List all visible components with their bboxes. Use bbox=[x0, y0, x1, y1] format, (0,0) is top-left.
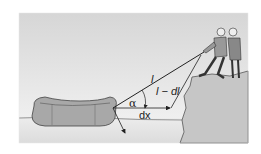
diagram: l l − dl α dx bbox=[0, 0, 261, 154]
label-rope-l: l bbox=[151, 74, 153, 85]
raft bbox=[32, 97, 116, 126]
diagram-canvas bbox=[0, 0, 261, 154]
label-l-minus-dl: l − dl bbox=[156, 86, 180, 97]
label-alpha: α bbox=[129, 98, 136, 109]
label-dx: dx bbox=[139, 110, 151, 121]
